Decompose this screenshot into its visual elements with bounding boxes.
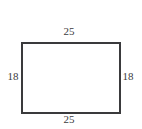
dimension-label-right: 18	[121, 70, 135, 82]
rectangle-figure: 25 18 18 25	[0, 0, 142, 129]
rectangle-shape	[21, 42, 121, 114]
dimension-label-bottom: 25	[0, 113, 140, 125]
dimension-label-top: 25	[0, 25, 140, 37]
dimension-label-left: 18	[6, 70, 20, 82]
